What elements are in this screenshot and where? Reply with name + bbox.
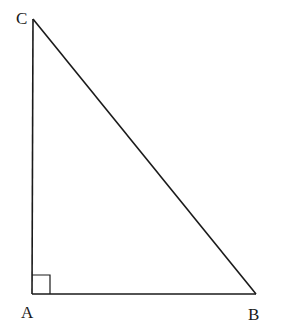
side-cb	[33, 19, 256, 294]
vertex-label-c: C	[16, 9, 27, 28]
vertex-label-b: B	[248, 305, 259, 324]
triangle-diagram: C A B	[0, 0, 284, 334]
vertex-label-a: A	[21, 303, 34, 322]
right-angle-marker	[32, 275, 50, 294]
side-ca	[32, 19, 33, 294]
